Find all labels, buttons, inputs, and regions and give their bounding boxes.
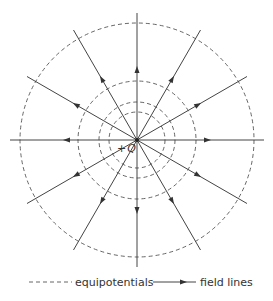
- field-line: [137, 140, 201, 250]
- field-line: [137, 140, 247, 204]
- arrowhead-icon: [100, 197, 106, 204]
- field-line: [74, 30, 138, 140]
- charge-sign: +: [117, 142, 126, 155]
- arrowhead-icon: [63, 138, 70, 143]
- arrowhead-icon: [73, 171, 80, 177]
- arrowhead-icon: [73, 103, 80, 109]
- field-line: [137, 77, 247, 141]
- charge-label: +Q: [117, 142, 136, 155]
- legend-arrowhead-icon: [180, 280, 187, 285]
- arrowhead-icon: [100, 76, 106, 83]
- legend-equipotentials-label: equipotentials: [75, 276, 154, 289]
- arrowhead-icon: [168, 76, 174, 83]
- field-line: [137, 138, 264, 143]
- charge-symbol: Q: [127, 142, 136, 155]
- arrowhead-icon: [194, 171, 201, 177]
- field-diagram: +Q equipotentials field lines: [0, 0, 273, 301]
- arrowhead-icon: [168, 197, 174, 204]
- arrowhead-icon: [194, 103, 201, 109]
- arrowhead-icon: [204, 138, 211, 143]
- field-line: [135, 13, 140, 140]
- field-line: [27, 77, 137, 141]
- field-line: [74, 140, 138, 250]
- legend: equipotentials field lines: [29, 276, 253, 289]
- legend-field-lines-label: field lines: [200, 276, 253, 289]
- arrowhead-icon: [135, 66, 140, 73]
- arrowhead-icon: [135, 207, 140, 214]
- field-line: [137, 30, 201, 140]
- field-line: [135, 140, 140, 267]
